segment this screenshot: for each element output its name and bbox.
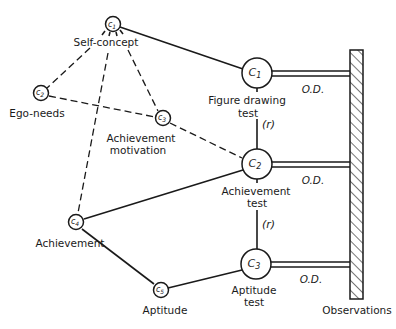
node-label: Aptitude bbox=[143, 304, 188, 316]
edge-c1-c4 bbox=[78, 53, 108, 213]
node-C2-achievement-test: C2 Achievement test bbox=[222, 149, 291, 209]
node-label-line2: test bbox=[244, 296, 264, 308]
node-label: Achievement bbox=[36, 237, 105, 249]
edge-c3-C2 bbox=[170, 123, 242, 158]
hatched-observations-bar bbox=[350, 50, 363, 299]
edge-c1-c2 bbox=[47, 48, 90, 88]
observations-label: Observations bbox=[322, 304, 391, 316]
edge-c1-C1 bbox=[120, 27, 243, 69]
construct-network-diagram: (r) (r) O.D. O.D. O.D. Observations c1 S… bbox=[0, 0, 396, 329]
od-label-C1: O.D. bbox=[302, 83, 325, 95]
reliability-label-2: (r) bbox=[262, 218, 275, 231]
node-c1-self-concept: c1 Self-concept bbox=[74, 17, 139, 49]
node-C1-figure-drawing-test: C1 Figure drawing test bbox=[208, 58, 286, 119]
edge-c2-c3 bbox=[49, 96, 155, 117]
node-label-line1: Aptitude bbox=[232, 284, 277, 296]
node-c5-aptitude: c5 Aptitude bbox=[143, 283, 188, 317]
spoke bbox=[120, 30, 123, 34]
reliability-label-1: (r) bbox=[262, 118, 275, 131]
spoke bbox=[102, 31, 105, 35]
node-c3-achievement-motivation: c3 Achievement motivation bbox=[107, 111, 176, 157]
edge-c4-C2 bbox=[84, 170, 243, 219]
node-label: Ego-needs bbox=[9, 107, 64, 119]
node-label-line2: test bbox=[238, 107, 258, 119]
edge-c1-c3 bbox=[128, 50, 158, 111]
node-label-line1: Achievement bbox=[222, 185, 291, 197]
od-label-C2: O.D. bbox=[302, 174, 325, 186]
node-label-line1: Figure drawing bbox=[208, 94, 286, 106]
observations-bar: Observations bbox=[322, 50, 391, 316]
node-c4-achievement: c4 Achievement bbox=[36, 215, 105, 250]
node-label-line2: motivation bbox=[110, 144, 166, 156]
dashed-edges bbox=[47, 48, 242, 213]
node-c2-ego-needs: c2 Ego-needs bbox=[9, 86, 64, 120]
node-label: Self-concept bbox=[74, 36, 139, 48]
node-label-line2: test bbox=[247, 197, 267, 209]
node-label-line1: Achievement bbox=[107, 132, 176, 144]
od-label-C3: O.D. bbox=[300, 273, 323, 285]
node-C3-aptitude-test: C3 Aptitude test bbox=[232, 249, 277, 308]
